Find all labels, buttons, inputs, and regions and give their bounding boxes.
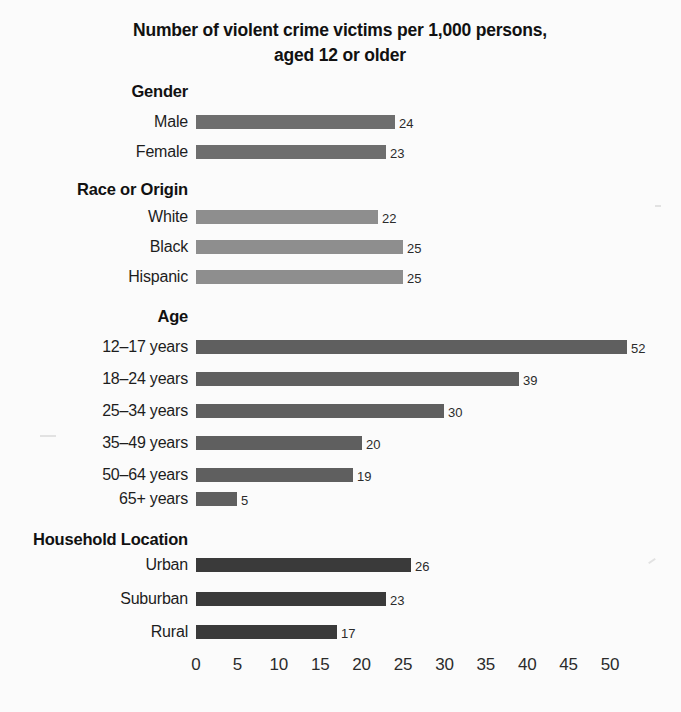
bar-gender-0[interactable] bbox=[196, 115, 395, 129]
bar-label-gender-1: Female bbox=[0, 143, 188, 161]
x-axis-tick-50: 50 bbox=[590, 655, 630, 675]
bar-label-age-3: 35–49 years bbox=[0, 434, 188, 452]
bar-label-household-location-0: Urban bbox=[0, 556, 188, 574]
group-header-household-location: Household Location bbox=[0, 530, 188, 549]
bar-race-or-origin-1[interactable] bbox=[196, 240, 403, 254]
scan-artifact bbox=[40, 435, 56, 437]
bar-value-age-0: 52 bbox=[631, 341, 645, 356]
bar-value-age-1: 39 bbox=[523, 373, 537, 388]
chart-figure: Number of violent crime victims per 1,00… bbox=[0, 0, 681, 712]
bar-value-gender-1: 23 bbox=[390, 146, 404, 161]
bar-label-age-0: 12–17 years bbox=[0, 338, 188, 356]
group-header-gender: Gender bbox=[0, 82, 188, 101]
bar-label-age-4: 50–64 years bbox=[0, 466, 188, 484]
bar-label-race-or-origin-2: Hispanic bbox=[0, 268, 188, 286]
bar-value-household-location-2: 17 bbox=[341, 626, 355, 641]
bar-age-1[interactable] bbox=[196, 372, 519, 386]
plot-area: GenderMale24Female23Race or OriginWhite2… bbox=[0, 0, 681, 712]
bar-race-or-origin-2[interactable] bbox=[196, 270, 403, 284]
bar-age-5[interactable] bbox=[196, 492, 237, 506]
bar-label-gender-0: Male bbox=[0, 113, 188, 131]
bar-value-age-5: 5 bbox=[241, 493, 248, 508]
bar-value-age-3: 20 bbox=[366, 437, 380, 452]
bar-household-location-2[interactable] bbox=[196, 625, 337, 639]
scan-artifact bbox=[655, 205, 661, 207]
x-axis-tick-45: 45 bbox=[549, 655, 589, 675]
x-axis-tick-35: 35 bbox=[466, 655, 506, 675]
bar-label-household-location-1: Suburban bbox=[0, 590, 188, 608]
bar-household-location-0[interactable] bbox=[196, 558, 411, 572]
x-axis-tick-10: 10 bbox=[259, 655, 299, 675]
x-axis-tick-25: 25 bbox=[383, 655, 423, 675]
bar-label-household-location-2: Rural bbox=[0, 623, 188, 641]
x-axis-tick-40: 40 bbox=[507, 655, 547, 675]
bar-value-race-or-origin-1: 25 bbox=[407, 241, 421, 256]
bar-value-household-location-0: 26 bbox=[415, 559, 429, 574]
bar-age-0[interactable] bbox=[196, 340, 627, 354]
x-axis-tick-0: 0 bbox=[176, 655, 216, 675]
bar-value-age-4: 19 bbox=[357, 469, 371, 484]
bar-gender-1[interactable] bbox=[196, 145, 386, 159]
bar-value-race-or-origin-0: 22 bbox=[382, 211, 396, 226]
bar-value-household-location-1: 23 bbox=[390, 593, 404, 608]
bar-label-race-or-origin-0: White bbox=[0, 208, 188, 226]
bar-label-age-1: 18–24 years bbox=[0, 370, 188, 388]
group-header-race-or-origin: Race or Origin bbox=[0, 180, 188, 199]
bar-value-race-or-origin-2: 25 bbox=[407, 271, 421, 286]
x-axis-tick-15: 15 bbox=[300, 655, 340, 675]
x-axis-tick-5: 5 bbox=[217, 655, 257, 675]
bar-race-or-origin-0[interactable] bbox=[196, 210, 378, 224]
bar-age-3[interactable] bbox=[196, 436, 362, 450]
bar-household-location-1[interactable] bbox=[196, 592, 386, 606]
bar-label-age-2: 25–34 years bbox=[0, 402, 188, 420]
group-header-age: Age bbox=[0, 307, 188, 326]
bar-value-gender-0: 24 bbox=[399, 116, 413, 131]
bar-value-age-2: 30 bbox=[448, 405, 462, 420]
bar-age-4[interactable] bbox=[196, 468, 353, 482]
x-axis-tick-20: 20 bbox=[342, 655, 382, 675]
bar-label-race-or-origin-1: Black bbox=[0, 238, 188, 256]
bar-age-2[interactable] bbox=[196, 404, 444, 418]
x-axis-tick-30: 30 bbox=[424, 655, 464, 675]
bar-label-age-5: 65+ years bbox=[0, 490, 188, 508]
